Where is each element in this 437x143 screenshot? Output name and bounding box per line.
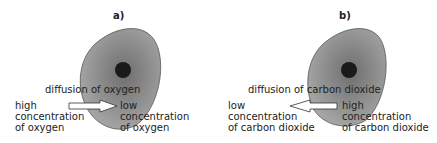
process-label-b: diffusion of carbon dioxide (248, 84, 381, 95)
panel-b-co2-diffusion: b) diffusion of carbon dioxide low conce… (218, 0, 436, 143)
left-label-b: low concentration of carbon dioxide (228, 100, 315, 133)
left-label-a: high concentration of oxygen (15, 100, 84, 133)
right-label-a: low concentration of oxygen (120, 100, 189, 133)
right-label-b: high concentration of carbon dioxide (342, 100, 429, 133)
nucleus (341, 62, 357, 78)
process-label-a: diffusion of oxygen (45, 84, 140, 95)
nucleus (115, 62, 131, 78)
panel-a-oxygen-diffusion: a) diffusion of oxygen high concentratio… (0, 0, 218, 143)
